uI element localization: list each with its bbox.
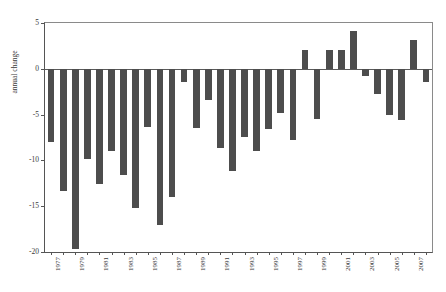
y-tick-label: -10: [29, 156, 39, 164]
bar: [181, 69, 188, 82]
bar: [423, 69, 430, 82]
x-tick: [402, 252, 403, 255]
bar: [72, 69, 79, 249]
bar: [253, 69, 260, 151]
bar: [374, 69, 381, 95]
bar: [314, 69, 321, 119]
bar: [193, 69, 200, 129]
x-tick: [426, 252, 427, 255]
bar: [410, 40, 417, 68]
bar: [84, 69, 91, 159]
x-tick-label: 1977: [54, 257, 62, 271]
bar-chart-figure: annual change 50-5-10-15-201977197919811…: [0, 0, 446, 292]
x-tick: [232, 252, 233, 255]
y-tick-label: -20: [29, 248, 39, 256]
bar: [290, 69, 297, 140]
x-tick: [160, 252, 161, 255]
y-tick-label: 0: [35, 65, 39, 73]
bar: [362, 69, 369, 76]
x-tick: [257, 252, 258, 255]
x-tick: [75, 252, 76, 255]
x-tick-label: 1985: [151, 257, 159, 271]
x-tick: [281, 252, 282, 255]
bar: [338, 50, 345, 69]
bar: [229, 69, 236, 172]
x-tick: [87, 252, 88, 255]
y-axis-title: annual change: [9, 32, 21, 112]
bar: [398, 69, 405, 120]
bar-series: [45, 23, 432, 252]
bar: [241, 69, 248, 137]
x-tick-label: 1995: [272, 257, 280, 271]
x-tick: [329, 252, 330, 255]
x-tick-label: 1981: [102, 257, 110, 271]
x-tick: [245, 252, 246, 255]
x-tick: [99, 252, 100, 255]
x-tick: [317, 252, 318, 255]
y-tick: [41, 160, 45, 161]
x-tick-label: 1991: [223, 257, 231, 271]
x-tick-label: 2003: [368, 257, 376, 271]
bar: [265, 69, 272, 129]
x-tick: [378, 252, 379, 255]
bar: [217, 69, 224, 148]
x-tick: [196, 252, 197, 255]
x-tick-label: 1989: [199, 257, 207, 271]
bar: [132, 69, 139, 208]
bar: [205, 69, 212, 100]
bar: [157, 69, 164, 225]
x-tick: [390, 252, 391, 255]
x-tick-label: 1999: [320, 257, 328, 271]
x-tick: [353, 252, 354, 255]
x-tick: [136, 252, 137, 255]
x-tick: [305, 252, 306, 255]
y-tick-label: -15: [29, 202, 39, 210]
y-tick: [41, 252, 45, 253]
y-tick: [41, 206, 45, 207]
y-tick-label: -5: [33, 111, 39, 119]
bar: [277, 69, 284, 113]
x-tick: [220, 252, 221, 255]
x-tick-label: 1983: [127, 257, 135, 271]
x-tick-label: 1997: [296, 257, 304, 271]
x-tick: [184, 252, 185, 255]
y-tick: [41, 23, 45, 24]
bar: [60, 69, 67, 191]
bar: [302, 50, 309, 68]
x-tick: [208, 252, 209, 255]
x-tick: [148, 252, 149, 255]
plot-area: 50-5-10-15-20197719791981198319851987198…: [44, 22, 433, 253]
x-tick-label: 2007: [417, 257, 425, 271]
x-tick-label: 2005: [393, 257, 401, 271]
bar: [169, 69, 176, 197]
bar: [144, 69, 151, 127]
x-tick: [341, 252, 342, 255]
x-tick: [365, 252, 366, 255]
x-tick: [269, 252, 270, 255]
bar: [350, 31, 357, 69]
bar: [108, 69, 115, 151]
x-tick: [51, 252, 52, 255]
x-tick: [172, 252, 173, 255]
y-tick: [41, 115, 45, 116]
bar: [48, 69, 55, 142]
x-tick-label: 1979: [78, 257, 86, 271]
bar: [96, 69, 103, 184]
x-tick: [293, 252, 294, 255]
x-tick-label: 1993: [248, 257, 256, 271]
x-tick-label: 2001: [344, 257, 352, 271]
y-tick: [41, 69, 45, 70]
x-tick: [63, 252, 64, 255]
x-tick: [124, 252, 125, 255]
bar: [386, 69, 393, 115]
x-tick: [414, 252, 415, 255]
cropped-caption: [0, 0, 446, 9]
x-tick-label: 1987: [175, 257, 183, 271]
bar: [326, 50, 333, 68]
y-tick-label: 5: [35, 19, 39, 27]
bar: [120, 69, 127, 175]
x-tick: [112, 252, 113, 255]
